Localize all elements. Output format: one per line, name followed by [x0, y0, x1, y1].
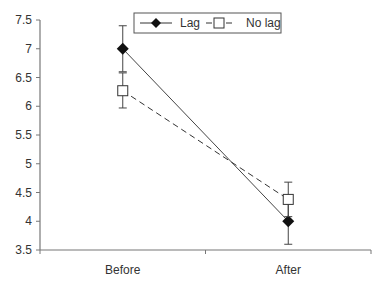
series-lag [117, 26, 295, 245]
y-tick-label: 7 [25, 42, 32, 56]
square-marker [118, 86, 128, 96]
y-tick-label: 6 [25, 99, 32, 113]
series-group [117, 26, 295, 245]
y-tick-label: 7.5 [15, 13, 32, 27]
legend: LagNo lag [134, 13, 281, 33]
line-chart: 3.544.555.566.577.5 BeforeAfter LagNo la… [0, 0, 386, 290]
legend-label: No lag [246, 16, 281, 30]
y-tick-label: 5.5 [15, 128, 32, 142]
x-axis: BeforeAfter [40, 250, 371, 277]
y-tick-label: 6.5 [15, 71, 32, 85]
y-tick-label: 4.5 [15, 186, 32, 200]
y-tick-label: 5 [25, 157, 32, 171]
legend-label: Lag [180, 16, 200, 30]
square-marker [214, 18, 224, 28]
y-tick-label: 3.5 [15, 243, 32, 257]
x-tick-label: Before [105, 263, 141, 277]
square-marker [283, 194, 293, 204]
y-tick-label: 4 [25, 214, 32, 228]
x-tick-label: After [276, 263, 301, 277]
series-no-lag [118, 73, 294, 217]
y-axis: 3.544.555.566.577.5 [15, 13, 40, 257]
